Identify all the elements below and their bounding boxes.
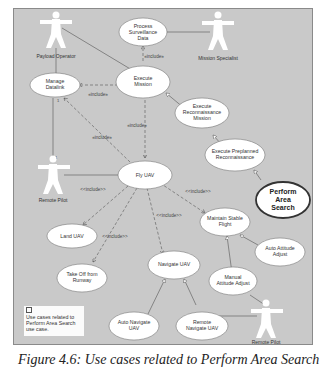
- svg-text:Navigate UAV: Navigate UAV: [158, 261, 191, 267]
- label-include-fly-datalink: «include»: [92, 135, 112, 140]
- use-case-manual-attitude-adjust[interactable]: Manual Attitude Adjust: [209, 267, 257, 295]
- multiplicity-1: 1: [57, 98, 60, 103]
- include-fly-uav-maintain-stable-flight: [160, 183, 205, 213]
- svg-text:Attitude Adjust: Attitude Adjust: [216, 280, 250, 286]
- svg-text:Remote Pilot: Remote Pilot: [252, 339, 281, 345]
- use-case-perform-area-search[interactable]: Perform Area Search: [256, 182, 310, 218]
- use-case-fly-uav[interactable]: Fly UAV: [118, 161, 172, 189]
- gen-auto-attitude: [240, 235, 258, 245]
- label-include-process: «include»: [144, 54, 164, 59]
- use-case-manage-datalink[interactable]: Manage Datalink: [30, 73, 80, 97]
- include-fly-uav-navigate: [147, 188, 163, 254]
- svg-text:Remote Pilot: Remote Pilot: [39, 197, 68, 203]
- label-include-takeoff: <<include>>: [102, 234, 128, 239]
- svg-text:Mission: Mission: [193, 115, 211, 121]
- label-include-datalink: «include»: [88, 92, 108, 97]
- use-case-execute-preplanned-recon[interactable]: Execute Preplanned Reconnaissance: [205, 139, 265, 171]
- svg-text:Area: Area: [275, 196, 291, 203]
- use-case-auto-attitude-adjust[interactable]: Auto Attitude Adjust: [255, 238, 305, 266]
- use-case-navigate-uav[interactable]: Navigate UAV: [148, 251, 200, 279]
- svg-text:Land UAV: Land UAV: [60, 233, 84, 239]
- gen-area-search-preplanned: [254, 170, 261, 180]
- svg-text:Navigate UAV: Navigate UAV: [186, 325, 219, 331]
- svg-text:UAV: UAV: [129, 325, 140, 331]
- svg-text:Reconnaissance: Reconnaissance: [216, 154, 254, 160]
- use-case-process-surveillance[interactable]: Process Surveillance Data: [119, 18, 167, 46]
- svg-text:Mission: Mission: [134, 81, 152, 87]
- actor-remote-pilot[interactable]: Remote Pilot: [38, 156, 70, 204]
- svg-text:Flight: Flight: [219, 221, 232, 227]
- gen-remote-navigate: [184, 279, 196, 305]
- svg-text:Mission Specialist: Mission Specialist: [198, 55, 238, 61]
- label-include-fly: «include»: [127, 123, 147, 128]
- gen-auto-navigate: [148, 279, 165, 314]
- label-include-stable: <<include>>: [185, 189, 211, 194]
- label-include-navigate: <<include>>: [156, 213, 182, 218]
- svg-text:Datalink: Datalink: [46, 84, 65, 90]
- svg-text:Data: Data: [138, 35, 149, 41]
- svg-text:Perform: Perform: [270, 188, 297, 195]
- use-case-land-uav[interactable]: Land UAV: [47, 224, 97, 248]
- label-include-land: <<include>>: [80, 187, 106, 192]
- diagram-note: Use cases related to Perform Area Search…: [24, 306, 84, 336]
- note-text: Use cases related to Perform Area Search…: [26, 314, 75, 332]
- actor-remote-pilot-2[interactable]: Remote Pilot: [251, 300, 283, 346]
- actor-mission-specialist[interactable]: Mission Specialist: [198, 12, 238, 62]
- use-case-take-off-runway[interactable]: Take Off from Runway: [57, 264, 107, 292]
- include-fly-uav-manage-datalink: [64, 98, 130, 162]
- use-cases: Process Surveillance Data Manage Datalin…: [30, 18, 310, 340]
- svg-text:Adjust: Adjust: [273, 251, 288, 257]
- svg-text:Runway: Runway: [73, 277, 92, 283]
- use-case-maintain-stable-flight[interactable]: Maintain Stable Flight: [200, 208, 250, 236]
- svg-text:Fly UAV: Fly UAV: [136, 172, 155, 178]
- svg-text:Payload Operator: Payload Operator: [36, 53, 76, 59]
- note-icon: [26, 307, 32, 313]
- use-case-auto-navigate-uav[interactable]: Auto Navigate UAV: [109, 312, 159, 340]
- figure-caption: Figure 4.6: Use cases related to Perform…: [18, 352, 319, 368]
- include-fly-uav-take-off: [93, 188, 137, 262]
- svg-text:Search: Search: [271, 204, 294, 211]
- use-case-remote-navigate-uav[interactable]: Remote Navigate UAV: [176, 312, 228, 340]
- use-case-execute-mission[interactable]: Execute Mission: [116, 66, 170, 98]
- use-case-execute-recon-mission[interactable]: Execute Reconnaissance Mission: [175, 98, 229, 128]
